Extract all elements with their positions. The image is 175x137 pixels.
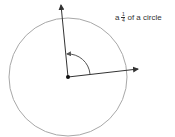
- fraction-one-quarter: 1 4: [121, 12, 125, 23]
- fraction-denominator: 4: [122, 18, 125, 23]
- quarter-circle-label: a 1 4 of a circle: [115, 12, 162, 23]
- quarter-turn-arc-arrow: [67, 54, 90, 74]
- ray-right-arrow: [68, 69, 138, 77]
- center-point: [66, 75, 70, 79]
- label-suffix: of a circle: [127, 13, 161, 22]
- label-prefix: a: [115, 13, 119, 22]
- ray-up-arrow: [61, 5, 68, 77]
